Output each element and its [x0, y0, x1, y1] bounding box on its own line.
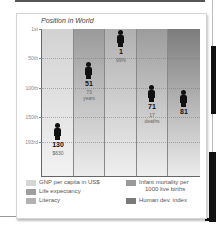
right-rule [212, 0, 213, 46]
chart-card: Position in World 1st 50th 100th 150th 1… [16, 13, 207, 219]
y-tick: 50th [22, 55, 38, 61]
metric-value: $630 [43, 150, 73, 156]
right-black-bar [209, 152, 216, 222]
person-icon [147, 85, 156, 102]
top-rule [15, 0, 205, 2]
gridline [42, 117, 200, 118]
y-tick: 100th [22, 85, 38, 91]
legend-swatch [26, 180, 36, 186]
legend-swatch [26, 189, 36, 195]
rank-value: 130 [43, 141, 73, 148]
y-tick: 150th [22, 114, 38, 120]
y-tick: 1st [22, 26, 38, 32]
y-tickmark [39, 29, 42, 30]
y-tickmark [39, 142, 42, 143]
rank-value: 51 [74, 80, 104, 87]
y-tickmark [39, 58, 42, 59]
column-life-expectancy [74, 29, 105, 176]
right-rule [212, 114, 213, 152]
rank-value: 81 [169, 108, 199, 115]
person-icon [179, 90, 188, 107]
y-tick: 193rd [22, 139, 38, 145]
legend-swatch [26, 198, 36, 204]
plot-area: 1st 50th 100th 150th 193rd 130 $630 51 7… [41, 29, 200, 177]
legend-swatch [126, 198, 136, 204]
gridline [42, 88, 200, 89]
person-icon [84, 62, 93, 79]
person-icon [53, 123, 62, 140]
y-tickmark [39, 117, 42, 118]
metric-unit: deaths [137, 118, 167, 124]
rank-value: 1 [106, 48, 136, 55]
legend-swatch [126, 180, 136, 186]
person-icon [116, 30, 125, 47]
right-black-bar [211, 46, 216, 114]
y-tickmark [39, 88, 42, 89]
rank-value: 71 [137, 103, 167, 110]
metric-unit: years [74, 95, 104, 101]
metric-value: 99% [106, 57, 136, 63]
chart-title: Position in World [41, 17, 94, 24]
